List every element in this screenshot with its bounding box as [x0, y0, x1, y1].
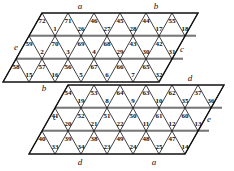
- cell-up-r5c1: 20: [65, 120, 73, 128]
- edge-label-e-right: e: [207, 114, 211, 124]
- cell-up-r1c1: 1: [53, 25, 57, 33]
- cell-down-r2c3: 69: [78, 40, 86, 48]
- cell-down-r1c4: 45: [117, 17, 125, 25]
- cell-down-r2c4: 68: [104, 40, 112, 48]
- cell-up-r4c6: 36: [208, 97, 216, 105]
- cell-down-r6c5: 48: [143, 135, 151, 143]
- edge-label-d-topright: d: [188, 73, 193, 83]
- edge-label-a-top: a: [78, 1, 83, 11]
- cell-up-r2c3: 4: [92, 48, 96, 56]
- cell-down-r2c2: 70: [52, 40, 60, 48]
- cell-down-r3c4: 67: [91, 63, 99, 71]
- cell-up-r3c1: 15: [26, 71, 34, 79]
- cell-down-r5c4: 50: [130, 112, 138, 120]
- edge-label-c-right: c: [180, 44, 184, 54]
- cell-up-r6c6: 14: [182, 143, 190, 151]
- cell-down-r2c6: 42: [156, 40, 164, 48]
- cell-up-r1c5: 17: [156, 25, 164, 33]
- cell-down-r1c6: 55: [169, 17, 177, 25]
- edge-label-d-bottom: d: [78, 157, 83, 167]
- cell-up-r4c5: 35: [182, 97, 190, 105]
- cell-down-r4c1: 54: [65, 89, 73, 97]
- cell-down-r5c3: 51: [104, 112, 112, 120]
- edge-label-b-top: b: [154, 1, 159, 11]
- cell-up-r2c5: 30: [143, 48, 151, 56]
- cell-down-r6c2: 39: [65, 135, 73, 143]
- cell-down-r1c3: 46: [91, 17, 99, 25]
- cell-down-r2c1: 59: [26, 40, 34, 48]
- cell-up-r3c4: 6: [105, 71, 109, 79]
- triangular-grid-figure: 1 26 27 28 17 18 72 71 46 45 44 55 2 3 4…: [0, 0, 234, 171]
- cell-down-r5c5: 61: [156, 112, 164, 120]
- cell-down-r4c2: 53: [91, 89, 99, 97]
- cell-up-r3c2: 16: [52, 71, 60, 79]
- cell-up-r1c6: 18: [182, 25, 190, 33]
- cell-down-r6c3: 38: [91, 135, 99, 143]
- cell-down-r6c4: 49: [117, 135, 125, 143]
- cell-up-r2c1: 2: [40, 48, 44, 56]
- cell-down-r3c5: 66: [117, 63, 125, 71]
- cell-up-r4c4: 10: [156, 97, 164, 105]
- cell-up-r6c4: 24: [130, 143, 138, 151]
- cell-up-r5c3: 22: [117, 120, 125, 128]
- cell-down-r1c5: 44: [143, 17, 151, 25]
- edge-label-a-bottom: a: [152, 157, 157, 167]
- cell-up-r1c4: 28: [130, 25, 138, 33]
- cell-up-r4c3: 9: [131, 97, 135, 105]
- cell-up-r6c2: 34: [78, 143, 86, 151]
- edge-label-b-bottom: b: [42, 83, 47, 93]
- cell-up-r4c2: 8: [105, 97, 109, 105]
- cell-down-r5c6: 60: [182, 112, 190, 120]
- cell-up-r3c5: 7: [131, 71, 135, 79]
- cell-up-r4c1: 19: [78, 97, 86, 105]
- cell-down-r5c2: 52: [78, 112, 86, 120]
- cell-up-r6c1: 33: [52, 143, 60, 151]
- cell-down-r4c4: 63: [143, 89, 151, 97]
- cell-up-r6c5: 25: [156, 143, 164, 151]
- cell-up-r5c2: 21: [91, 120, 99, 128]
- cell-up-r2c6: 31: [169, 48, 177, 56]
- cell-down-r4c3: 64: [117, 89, 125, 97]
- cell-down-r4c6: 37: [195, 89, 203, 97]
- cell-up-r5c6: 13: [195, 120, 203, 128]
- cell-up-r2c2: 3: [66, 48, 70, 56]
- cell-up-r5c4: 11: [143, 120, 150, 128]
- cell-down-r1c2: 71: [65, 17, 73, 25]
- cell-down-r6c6: 47: [169, 135, 177, 143]
- cell-down-r3c2: 57: [39, 63, 47, 71]
- edge-label-e-left: e: [14, 42, 18, 52]
- cell-up-r1c3: 27: [104, 25, 112, 33]
- cell-down-r3c1: 58: [13, 63, 21, 71]
- cell-up-r3c3: 5: [79, 71, 83, 79]
- edge-label-c-left: c: [53, 112, 57, 122]
- cell-up-r6c3: 23: [104, 143, 112, 151]
- cell-down-r3c6: 65: [143, 63, 151, 71]
- figure-canvas: 1 26 27 28 17 18 72 71 46 45 44 55 2 3 4…: [0, 0, 234, 171]
- cell-down-r4c5: 62: [169, 89, 177, 97]
- cell-up-r2c4: 29: [117, 48, 125, 56]
- cell-down-r1c1: 72: [39, 17, 47, 25]
- cell-down-r2c5: 43: [130, 40, 138, 48]
- cell-down-r3c3: 56: [65, 63, 73, 71]
- cell-up-r5c5: 12: [169, 120, 177, 128]
- cell-up-r3c6: 32: [156, 71, 164, 79]
- cell-up-r1c2: 26: [78, 25, 86, 33]
- cell-down-r6c1: 40: [39, 135, 47, 143]
